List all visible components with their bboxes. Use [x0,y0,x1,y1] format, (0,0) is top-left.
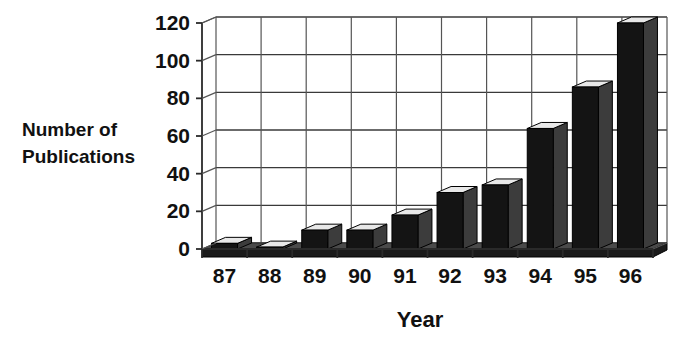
bar-chart-svg: 020406080100120 87888990919293949596 Num… [0,0,687,347]
bar-96 [617,17,657,249]
y-tick-label-100: 100 [155,49,190,72]
bar-front-face-95 [572,87,598,249]
bar-89 [302,224,342,249]
bar-95 [572,81,612,249]
bar-side-face-96 [643,17,657,249]
bar-93 [482,179,522,249]
y-tick-depth-40 [202,168,216,174]
y-tick-depth-60 [202,130,216,136]
bar-front-face-89 [302,230,328,249]
y-tick-label-80: 80 [167,86,190,109]
chart-container: 020406080100120 87888990919293949596 Num… [0,0,687,347]
x-tick-label-87: 87 [213,264,236,287]
y-axis-title-line-2: Publications [22,146,135,167]
bar-side-face-95 [598,81,612,249]
y-tick-label-60: 60 [167,124,190,147]
bar-front-face-92 [437,193,463,250]
bar-front-face-93 [482,185,508,249]
x-tick-label-93: 93 [483,264,506,287]
x-tick-label-94: 94 [529,264,553,287]
y-tick-label-40: 40 [167,162,190,185]
y-tick-label-20: 20 [167,199,190,222]
x-tick-label-91: 91 [393,264,417,287]
x-tick-label-95: 95 [574,264,598,287]
y-tick-label-120: 120 [155,11,190,34]
bar-94 [527,122,567,249]
bar-front-face-94 [527,128,553,249]
bar-side-face-91 [418,209,432,249]
bar-90 [347,224,387,249]
x-tick-label-90: 90 [348,264,371,287]
x-axis-category-labels: 87888990919293949596 [213,264,642,287]
x-tick-label-89: 89 [303,264,326,287]
bar-side-face-92 [463,187,477,250]
x-axis-title: Year [397,307,444,332]
y-tick-label-0: 0 [178,237,190,260]
y-axis-title-line-1: Number of [22,119,118,140]
bar-front-face-91 [392,215,418,249]
bars-group [212,17,658,249]
y-tick-depth-20 [202,205,216,211]
bar-side-face-94 [553,122,567,249]
bar-front-face-90 [347,230,373,249]
bar-side-face-93 [508,179,522,249]
y-tick-depth-120 [202,17,216,23]
bar-92 [437,187,477,250]
bar-front-face-96 [617,23,643,249]
y-tick-depth-80 [202,92,216,98]
y-axis-title: Number of Publications [22,119,135,167]
x-tick-label-96: 96 [619,264,642,287]
y-tick-depth-100 [202,55,216,61]
y-axis-tick-labels: 020406080100120 [155,11,190,260]
x-tick-label-88: 88 [258,264,282,287]
bar-91 [392,209,432,249]
x-tick-label-92: 92 [438,264,461,287]
